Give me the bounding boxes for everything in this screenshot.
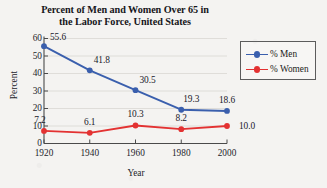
data-point-label: 7.2 xyxy=(34,115,45,125)
data-point-label: 10.3 xyxy=(127,109,143,119)
legend-item-women[interactable]: % Women xyxy=(246,62,309,76)
data-point-label: 30.5 xyxy=(139,75,155,85)
data-point-label: 55.6 xyxy=(50,32,66,42)
data-point-label: 6.1 xyxy=(84,117,95,127)
legend-label-women: % Women xyxy=(268,64,309,74)
data-point-label: 8.2 xyxy=(176,113,187,123)
legend-item-men[interactable]: % Men xyxy=(246,47,297,61)
data-point-label: 10.0 xyxy=(239,121,255,131)
legend-label-men: % Men xyxy=(268,49,297,59)
plot-area xyxy=(0,0,327,188)
legend-marker-men-icon xyxy=(246,49,268,59)
data-point-label: 18.6 xyxy=(219,95,235,105)
chart-container: Percent of Men and Women Over 65 in the … xyxy=(0,0,327,188)
data-point-label: 41.8 xyxy=(94,55,110,65)
data-point-label: 19.3 xyxy=(183,94,199,104)
legend-marker-women-icon xyxy=(246,64,268,74)
legend: % Men % Women xyxy=(240,41,316,80)
